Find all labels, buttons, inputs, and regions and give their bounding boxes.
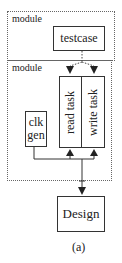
dotted-fanout xyxy=(70,51,94,66)
clk-bus xyxy=(34,147,94,188)
connectors xyxy=(0,0,122,263)
task-input-arrows xyxy=(66,66,98,74)
